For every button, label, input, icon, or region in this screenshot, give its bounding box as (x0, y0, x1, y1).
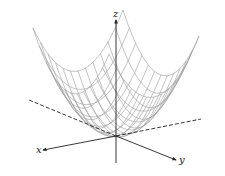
axes (29, 20, 201, 163)
mesh-line (33, 10, 123, 71)
x-axis (43, 136, 116, 150)
z-axis-label: z (112, 8, 119, 19)
x-axis-label: x (36, 144, 42, 155)
x-axis-back-dashed (29, 100, 116, 136)
mesh-line (56, 63, 132, 129)
paraboloid-diagram: x y z (0, 0, 225, 176)
y-axis (116, 136, 176, 160)
mesh-line (41, 42, 117, 108)
mesh-line (93, 62, 169, 128)
mesh-line (52, 56, 142, 117)
y-axis-label: y (178, 154, 185, 165)
mesh-line (33, 28, 109, 94)
mesh-line (123, 10, 199, 76)
y-axis-back-dashed (116, 119, 201, 136)
